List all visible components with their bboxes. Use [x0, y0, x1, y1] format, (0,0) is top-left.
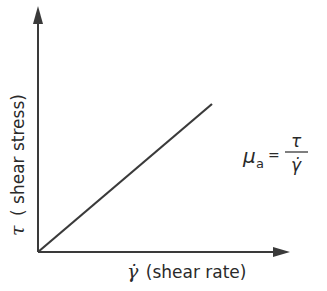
svg-text:μ: μ — [242, 144, 256, 168]
svg-text:a: a — [256, 156, 264, 171]
apparent-viscosity-equation: μ a = τ γ̇ — [242, 131, 308, 175]
y-axis-symbol: τ — [6, 225, 28, 236]
mu-symbol: μ — [242, 144, 256, 168]
denominator: γ̇ — [291, 155, 302, 175]
svg-text:τ ( shear stress): τ ( shear stress) — [6, 94, 28, 236]
numerator: τ — [291, 131, 302, 151]
y-axis-arrow-icon — [33, 6, 43, 24]
equals-sign: = — [268, 147, 280, 163]
y-axis-text: ( shear stress) — [8, 94, 28, 216]
x-axis-arrow-icon — [273, 247, 290, 257]
mu-subscript: a — [256, 156, 264, 171]
x-axis-label: γ̇ (shear rate) — [127, 260, 246, 282]
x-axis-symbol: γ̇ — [127, 260, 139, 282]
x-axis-text: (shear rate) — [146, 262, 247, 282]
shear-line — [38, 104, 212, 252]
diagram-canvas: τ ( shear stress) γ̇ (shear rate) μ a = … — [0, 0, 327, 291]
y-axis-label: τ ( shear stress) — [6, 94, 28, 236]
